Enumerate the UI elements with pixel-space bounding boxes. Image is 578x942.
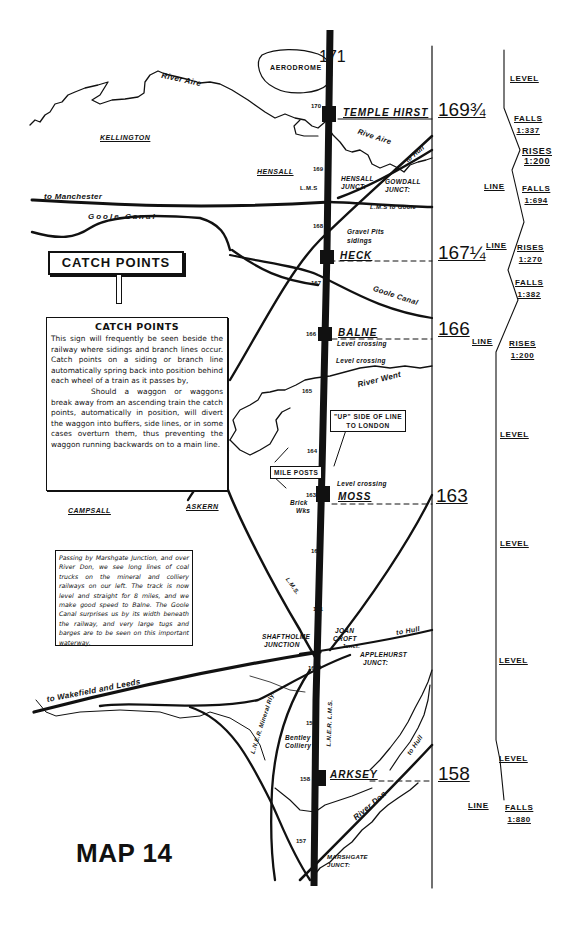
gradient-ratio: 1:200 <box>509 350 536 362</box>
milepost-157: 157 <box>296 838 306 844</box>
gradient-entry-8: LEVEL <box>500 540 529 548</box>
milepost-158: 158 <box>300 776 310 782</box>
gradient-direction: FALLS <box>522 183 550 195</box>
junction-label-applehurst-l1: APPLEHURST <box>360 652 407 659</box>
place-label-campsall: CAMPSALL <box>68 507 111 514</box>
place-label-aerodrome: AERODROME <box>270 64 322 71</box>
gradient-entry-3: FALLS 1:694 <box>522 183 550 207</box>
station-label-heck: HECK <box>340 251 372 261</box>
junction-label-hensall-l1: HENSALL <box>341 176 374 183</box>
gradient-ratio: 1:694 <box>522 195 550 207</box>
gradient-ratio: 1:880 <box>505 814 533 826</box>
junction-label-joan-croft-l3: Junct. <box>342 644 360 650</box>
main-line-track <box>314 30 330 886</box>
catch-points-sign: CATCH POINTS <box>48 251 184 275</box>
gradient-direction: LEVEL <box>499 657 528 665</box>
stream-west <box>36 700 265 760</box>
route-label-lms-north: L.M.S <box>300 185 318 191</box>
milepost-171: 171 <box>319 49 346 65</box>
junction-label-shaftholme-l1: SHAFTHOLME <box>262 634 310 641</box>
gradient-entry-4: RISES 1:270 <box>517 242 544 266</box>
waterway-label-goole-canal-west: Goole Canal <box>88 213 157 221</box>
feature-label-gravel-pits-l1: Gravel Pits <box>347 229 384 236</box>
gradient-direction: FALLS <box>514 113 542 125</box>
gradient-ratio: 1:270 <box>517 254 544 266</box>
place-label-askern: ASKERN <box>186 503 219 510</box>
catch-points-info-box: CATCH POINTS This sign will frequently b… <box>46 317 228 491</box>
junction-label-joan-croft-l2: CROFT <box>333 636 357 643</box>
feature-label-bentley-colliery-l2: Colliery <box>285 743 311 750</box>
junction-label-shaftholme-l2: JUNCTION <box>264 642 300 649</box>
feature-label-level-crossing-moss: Level crossing <box>337 481 387 488</box>
station-block-temple-hirst <box>322 106 336 122</box>
gradient-entry-11: FALLS 1:880 <box>505 802 533 826</box>
catch-points-heading: CATCH POINTS <box>51 321 223 332</box>
gradient-prefix-3: LINE <box>484 183 505 191</box>
gradient-direction: LEVEL <box>500 540 529 548</box>
station-block-arksey <box>312 770 326 786</box>
gradient-entry-9: LEVEL <box>499 657 528 665</box>
river-aire-loop <box>294 120 318 136</box>
gradient-ratio: 1:200 <box>522 156 552 166</box>
feature-label-bentley-colliery-l1: Bentley <box>285 735 311 742</box>
station-block-moss <box>316 486 330 502</box>
line-to-wakefield-leeds <box>34 652 320 712</box>
milepost-159: 159 <box>306 720 316 726</box>
gradient-entry-7: LEVEL <box>500 431 529 439</box>
place-label-kellington: KELLINGTON <box>100 134 150 141</box>
arrow-to-164 <box>275 448 288 462</box>
junction-label-marshgate-l1: MARSHGATE <box>327 854 368 860</box>
milepost-164: 164 <box>307 448 317 454</box>
callout-up-side-line2: TO LONDON <box>334 421 402 430</box>
gradient-profile-line <box>496 50 524 800</box>
milepost-161: 161 <box>313 606 323 612</box>
line-lner-mineral <box>271 670 310 880</box>
junction-label-gowdall-l2: JUNCT: <box>385 187 410 194</box>
gradient-prefix-6: LINE <box>472 338 493 346</box>
gradient-direction: RISES <box>509 338 536 350</box>
junction-label-gowdall-l1: GOWDALL <box>385 179 421 186</box>
milepost-165: 165 <box>302 388 312 394</box>
junction-label-joan-croft-l1: JOAN <box>335 628 354 635</box>
gradient-prefix-11: LINE <box>468 802 489 810</box>
station-mile-balne: 166 <box>438 319 470 338</box>
goole-canal-west <box>32 216 230 250</box>
route-label-lms-to-goole: L.M.S to Goole <box>370 204 416 210</box>
gradient-direction: LEVEL <box>499 755 528 763</box>
gradient-direction: FALLS <box>515 277 543 289</box>
catch-points-sign-post <box>116 275 122 304</box>
line-curve-to-marshgate <box>190 707 310 880</box>
callout-mile-posts: MILE POSTS <box>270 466 322 479</box>
milepost-167: 167 <box>311 280 321 286</box>
arrow-up-side <box>334 430 346 466</box>
river-went-west <box>230 408 290 455</box>
gradient-direction: LEVEL <box>510 75 539 83</box>
catch-points-paragraph-1: This sign will frequently be seen beside… <box>51 334 223 387</box>
milepost-170: 170 <box>311 103 321 109</box>
line-to-west-branch <box>232 250 318 285</box>
gradient-entry-2: RISES 1:200 <box>522 146 552 166</box>
callout-up-side: "UP" SIDE OF LINE TO LONDON <box>330 410 406 432</box>
gradient-entry-5: FALLS 1:382 <box>515 277 543 301</box>
station-mile-moss: 163 <box>436 486 468 505</box>
milepost-162: 162 <box>311 548 321 554</box>
station-mile-arksey: 158 <box>438 764 470 783</box>
station-label-moss: MOSS <box>338 492 371 502</box>
gradient-entry-10: LEVEL <box>499 755 528 763</box>
gradient-direction: RISES <box>517 242 544 254</box>
junction-label-hensall-l2: JUNCT: <box>341 184 366 191</box>
feature-label-level-crossing-balne: Level crossing <box>337 341 387 348</box>
feature-label-brick-works-l1: Brick <box>290 500 308 507</box>
route-label-to-manchester: to Manchester <box>44 193 102 201</box>
station-mile-heck: 167¼ <box>438 243 486 262</box>
river-don-north-2 <box>390 685 430 770</box>
junction-label-applehurst-l2: JUNCT: <box>363 660 388 667</box>
gradient-entry-6: RISES 1:200 <box>509 338 536 362</box>
station-block-balne <box>318 327 332 341</box>
gradient-entry-0: LEVEL <box>510 75 539 83</box>
gradient-ratio: 1:382 <box>515 289 543 301</box>
station-block-heck <box>320 250 334 264</box>
feature-label-gravel-pits-l2: sidings <box>347 238 372 245</box>
station-label-balne: BALNE <box>338 328 377 338</box>
gradient-direction: FALLS <box>505 802 533 814</box>
